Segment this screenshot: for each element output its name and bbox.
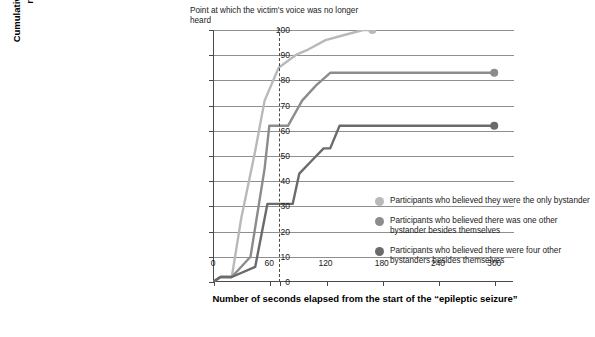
legend-swatch-icon [375,197,384,206]
series-line [213,30,372,282]
legend-swatch-icon [375,217,384,226]
series-endpoint-marker [368,30,376,34]
y-axis-title: Cumulative percentage of participants re… [10,0,36,56]
chart-annotation: Point at which the victim's voice was no… [190,6,380,26]
annotation-vline [279,28,280,282]
legend-label: Participants who believed they were the … [390,196,590,207]
legend-item: Participants who believed there was one … [375,216,590,237]
x-tick-label: 180 [369,258,395,268]
chart-container: Point at which the victim's voice was no… [0,0,595,337]
legend-swatch-icon [375,247,384,256]
x-tick-label: 240 [425,258,451,268]
series-endpoint-marker [490,122,498,130]
x-tick-label: 0 [200,258,226,268]
legend-label: Participants who believed there was one … [390,216,590,237]
x-tick-label: 120 [313,258,339,268]
legend-item: Participants who believed they were the … [375,196,590,207]
series-endpoint-marker [490,69,498,77]
x-axis-title: Number of seconds elapsed from the start… [200,292,530,305]
x-tick-label: 300 [481,258,507,268]
